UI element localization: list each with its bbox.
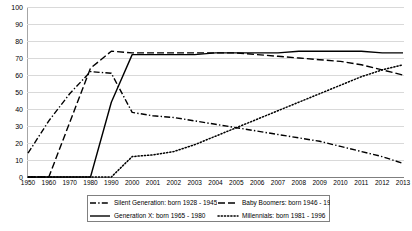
legend-label: Silent Generation: born 1928 - 1945 bbox=[114, 199, 217, 207]
series-line bbox=[28, 51, 403, 177]
series-lines bbox=[27, 7, 404, 177]
series-line bbox=[28, 65, 403, 177]
y-axis-tick: 90 bbox=[3, 21, 23, 28]
y-axis-tick: 70 bbox=[3, 55, 23, 62]
y-axis-tick: 50 bbox=[3, 89, 23, 96]
x-axis-tick: 2005 bbox=[229, 179, 243, 187]
y-axis-tick: 40 bbox=[3, 106, 23, 113]
x-axis-tick: 2002 bbox=[167, 179, 181, 187]
legend-item-millennials[interactable]: Millennials: born 1981 - 1996 bbox=[217, 210, 330, 222]
x-axis-tick: 1950 bbox=[21, 179, 35, 187]
legend-label: Millennials: born 1981 - 1996 bbox=[242, 212, 325, 220]
x-axis-tick: 2008 bbox=[292, 179, 306, 187]
x-axis-tick: 2012 bbox=[375, 179, 389, 187]
plot-area bbox=[27, 7, 404, 177]
legend-swatch-dash-dot-icon bbox=[89, 199, 111, 207]
x-axis-tick: 2010 bbox=[333, 179, 347, 187]
legend-swatch-long-dash-icon bbox=[217, 199, 239, 207]
x-axis-tick: 1970 bbox=[62, 179, 76, 187]
y-axis-tick: 100 bbox=[3, 4, 23, 11]
legend-item-generation-x[interactable]: Generation X: born 1965 - 1980 bbox=[89, 210, 217, 222]
x-axis-tick: 2013 bbox=[396, 179, 410, 187]
line-chart: 1009080706050403020100 19501960197019801… bbox=[0, 0, 412, 231]
y-axis-tick: 20 bbox=[3, 140, 23, 147]
x-axis-tick: 2009 bbox=[312, 179, 326, 187]
x-axis-tick: 2011 bbox=[354, 179, 368, 187]
x-axis-tick: 1980 bbox=[83, 179, 97, 187]
x-axis-tick: 2004 bbox=[208, 179, 222, 187]
chart-legend: Silent Generation: born 1928 - 1945 Baby… bbox=[87, 195, 330, 222]
series-line bbox=[28, 51, 403, 177]
legend-label: Generation X: born 1965 - 1980 bbox=[114, 212, 205, 220]
x-axis-tick: 1990 bbox=[104, 179, 118, 187]
x-axis-tick: 2007 bbox=[271, 179, 285, 187]
x-axis-tick: 2001 bbox=[146, 179, 160, 187]
y-axis-tick: 10 bbox=[3, 157, 23, 164]
x-axis-tick: 1960 bbox=[42, 179, 56, 187]
y-axis-tick: 60 bbox=[3, 72, 23, 79]
legend-label: Baby Boomers: born 1946 - 1964 bbox=[242, 199, 330, 207]
x-axis-tick: 2006 bbox=[250, 179, 264, 187]
legend-swatch-dotted-icon bbox=[217, 212, 239, 220]
legend-item-baby-boomers[interactable]: Baby Boomers: born 1946 - 1964 bbox=[217, 197, 330, 209]
y-axis-tick: 80 bbox=[3, 38, 23, 45]
series-line bbox=[28, 72, 403, 164]
legend-swatch-solid-icon bbox=[89, 212, 111, 220]
x-axis-tick: 2003 bbox=[187, 179, 201, 187]
legend-item-silent-generation[interactable]: Silent Generation: born 1928 - 1945 bbox=[89, 197, 217, 209]
x-axis-tick-labels: 1950196019701980199020002001200220032004… bbox=[27, 179, 404, 191]
x-axis-tick: 2000 bbox=[125, 179, 139, 187]
y-axis-tick: 30 bbox=[3, 123, 23, 130]
